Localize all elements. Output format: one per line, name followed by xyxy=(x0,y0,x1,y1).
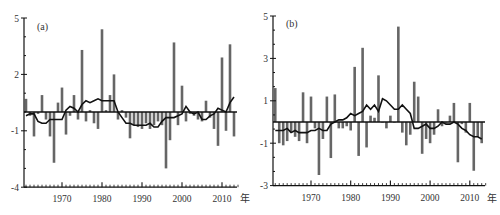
bar-2011 xyxy=(472,122,475,171)
bar-2006 xyxy=(205,101,208,112)
bar-2012 xyxy=(476,122,479,137)
y-tick-label: 3 xyxy=(263,54,268,64)
y-tick-label: -1 xyxy=(260,139,268,149)
bar-1965 xyxy=(41,95,44,112)
bar-1966 xyxy=(45,112,48,120)
bar-1974 xyxy=(77,112,80,120)
bar-1995 xyxy=(409,122,412,135)
x-tick-label: 2000 xyxy=(421,193,440,203)
bar-1989 xyxy=(385,122,388,128)
y-tick-label: 5 xyxy=(263,12,268,22)
x-tick-label: 1990 xyxy=(381,193,400,203)
x-unit-label-a: 年 xyxy=(240,192,250,204)
bar-1982 xyxy=(357,122,360,156)
bar-1994 xyxy=(157,112,160,121)
bar-1970 xyxy=(61,88,64,112)
chart-panel-a: 52-1-419701980199020002010 (a) 年 xyxy=(11,14,250,205)
bar-1974 xyxy=(326,97,329,122)
bar-1975 xyxy=(330,122,333,158)
bar-1963 xyxy=(282,122,285,145)
bar-2002 xyxy=(437,109,440,122)
bar-1983 xyxy=(113,74,116,112)
x-unit-label-b: 年 xyxy=(487,192,497,204)
bar-2007 xyxy=(457,122,460,162)
x-tick-label: 1980 xyxy=(93,194,112,204)
bar-1964 xyxy=(286,122,289,141)
x-tick-label: 1970 xyxy=(53,194,72,204)
bar-1972 xyxy=(318,122,321,175)
bar-1993 xyxy=(153,112,156,125)
bar-1991 xyxy=(145,112,148,123)
bar-1994 xyxy=(405,122,408,145)
bar-1970 xyxy=(310,97,313,122)
bar-1962 xyxy=(278,122,281,143)
bar-2005 xyxy=(449,116,452,122)
bar-1971 xyxy=(65,112,68,135)
bar-1990 xyxy=(141,112,144,129)
panel-label-a: (a) xyxy=(37,21,48,33)
bar-1986 xyxy=(125,112,128,118)
bar-1966 xyxy=(294,122,297,137)
bar-1961 xyxy=(274,88,277,122)
bar-2010 xyxy=(469,103,472,122)
bar-1976 xyxy=(334,94,337,122)
bar-1987 xyxy=(377,75,380,122)
figure: 52-1-419701980199020002010 (a) 年 531-1-3… xyxy=(0,0,500,215)
bar-1999 xyxy=(177,112,180,125)
bar-1978 xyxy=(341,122,344,128)
bar-2001 xyxy=(185,112,188,121)
x-tick-label: 2010 xyxy=(213,194,232,204)
bar-1997 xyxy=(417,97,420,122)
bar-2006 xyxy=(453,103,456,122)
y-tick-label: 1 xyxy=(263,96,268,106)
y-tick-label: -3 xyxy=(260,181,268,191)
y-tick-label: 5 xyxy=(14,14,19,24)
bar-2011 xyxy=(225,112,228,131)
bar-1998 xyxy=(173,42,176,112)
y-tick-label: -1 xyxy=(11,126,19,136)
bar-1967 xyxy=(49,112,52,136)
bar-1968 xyxy=(302,92,305,122)
y-tick-label: 2 xyxy=(14,70,19,80)
y-tick-label: -4 xyxy=(11,183,19,193)
bar-1992 xyxy=(149,112,152,129)
bar-1993 xyxy=(401,122,404,133)
bar-1982 xyxy=(109,95,112,112)
bar-2010 xyxy=(221,57,224,112)
axes-a: 52-1-419701980199020002010 xyxy=(11,14,238,205)
x-tick-label: 1980 xyxy=(341,193,360,203)
x-tick-label: 2000 xyxy=(173,194,192,204)
x-tick-label: 1990 xyxy=(133,194,152,204)
bar-1997 xyxy=(169,112,172,140)
bar-2013 xyxy=(233,112,236,136)
bar-1971 xyxy=(314,122,317,128)
x-tick-label: 1970 xyxy=(302,193,321,203)
bar-1981 xyxy=(353,67,356,122)
bar-1987 xyxy=(129,112,132,138)
bar-1990 xyxy=(389,116,392,122)
bars-a xyxy=(25,29,236,168)
bar-2013 xyxy=(480,122,483,143)
panel-label-b: (b) xyxy=(286,18,298,30)
bar-1996 xyxy=(413,82,416,122)
bar-1976 xyxy=(85,112,88,121)
bar-1985 xyxy=(369,116,372,122)
bar-1969 xyxy=(57,103,60,112)
bars-b xyxy=(274,27,483,175)
bar-1979 xyxy=(97,112,100,129)
bar-1980 xyxy=(349,122,352,130)
bar-1988 xyxy=(133,112,136,125)
bar-2000 xyxy=(181,86,184,112)
x-tick-label: 2010 xyxy=(460,193,479,203)
bar-1961 xyxy=(25,99,28,112)
bar-1977 xyxy=(337,122,340,128)
bar-1984 xyxy=(365,122,368,147)
bar-2000 xyxy=(429,122,432,143)
bar-1978 xyxy=(93,112,96,123)
chart-panel-b: 531-1-319701980199020002010 (b) 年 xyxy=(260,12,497,205)
bar-2009 xyxy=(217,112,220,146)
bar-1996 xyxy=(165,112,168,168)
